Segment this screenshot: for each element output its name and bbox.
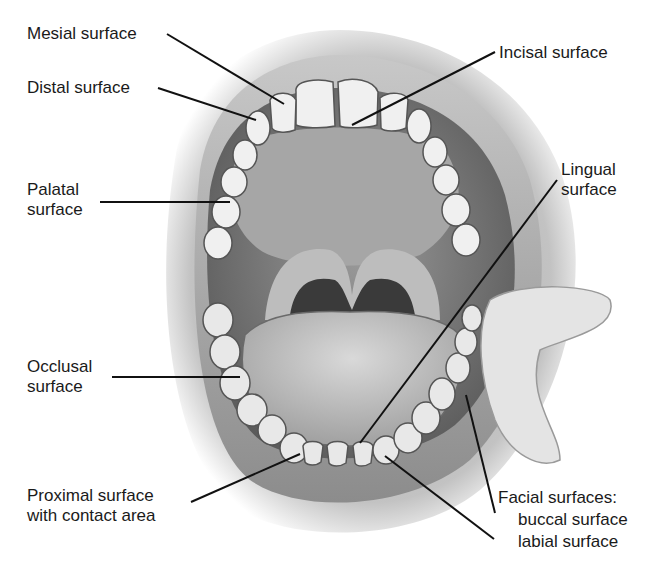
label-text: surface [27, 200, 83, 220]
label-text: Lingual [561, 160, 617, 180]
label-occlusal-surface: Occlusal surface [27, 357, 92, 397]
label-text: Distal surface [27, 78, 130, 98]
label-palatal-surface: Palatal surface [27, 180, 83, 220]
label-facial-surfaces: Facial surfaces: buccal surface labial s… [498, 487, 628, 553]
label-text: Palatal [27, 180, 83, 200]
label-text: labial surface [498, 531, 628, 553]
mouth-anatomy-diagram: Mesial surface Distal surface Incisal su… [0, 0, 662, 563]
label-text: Mesial surface [27, 24, 137, 44]
label-distal-surface: Distal surface [27, 78, 130, 98]
label-text: Facial surfaces: [498, 487, 628, 509]
label-text: buccal surface [498, 509, 628, 531]
label-text: with contact area [27, 506, 156, 526]
label-text: Proximal surface [27, 486, 156, 506]
label-text: surface [27, 377, 92, 397]
label-proximal-surface: Proximal surface with contact area [27, 486, 156, 526]
label-text: Incisal surface [499, 43, 608, 63]
label-lingual-surface: Lingual surface [561, 160, 617, 200]
label-mesial-surface: Mesial surface [27, 24, 137, 44]
label-text: surface [561, 180, 617, 200]
label-incisal-surface: Incisal surface [499, 43, 608, 63]
label-text: Occlusal [27, 357, 92, 377]
